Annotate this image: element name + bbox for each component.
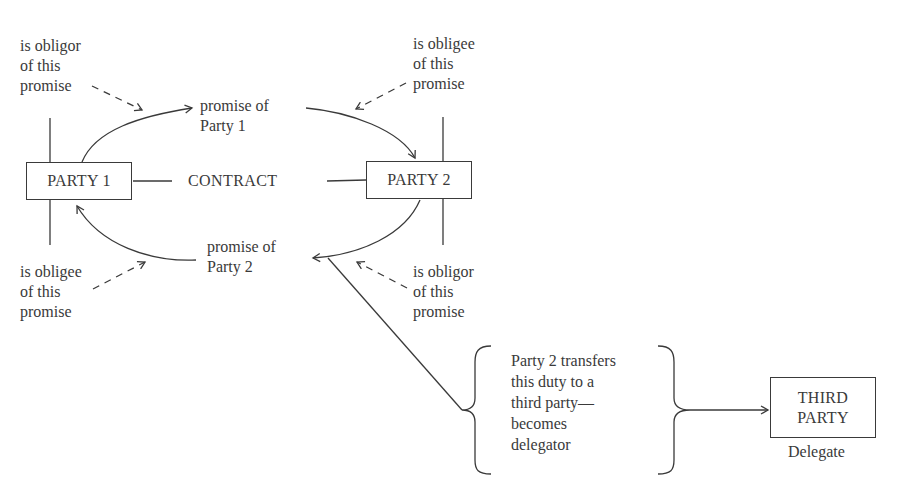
promise2-arrow-right <box>313 200 420 258</box>
obligor-dashed-arrow-top-left <box>92 86 142 110</box>
party1-box: PARTY 1 <box>26 162 132 200</box>
promise1-arrow-right <box>306 108 415 158</box>
delegation-text: Party 2 transfers this duty to a third p… <box>511 350 616 455</box>
promise-party1-label: promise of Party 1 <box>200 96 269 136</box>
role-top-left: is obligor of this promise <box>20 36 81 96</box>
obligee-dashed-arrow-bottom-left <box>93 262 145 289</box>
contract-label: CONTRACT <box>188 171 277 191</box>
delegate-label: Delegate <box>788 442 845 462</box>
third-party-label-line1: THIRD <box>798 388 848 408</box>
contract-right-connector <box>327 180 366 181</box>
third-party-label-line2: PARTY <box>797 408 849 428</box>
party2-box: PARTY 2 <box>366 161 472 199</box>
role-top-right: is obligee of this promise <box>413 34 475 94</box>
promise-party2-label: promise of Party 2 <box>207 237 276 277</box>
promise2-arrow-left <box>77 206 196 260</box>
third-party-box: THIRD PARTY <box>770 377 876 438</box>
party1-label: PARTY 1 <box>47 172 111 190</box>
obligee-dashed-arrow-top-right <box>356 83 406 109</box>
left-brace <box>462 346 491 474</box>
right-brace <box>658 346 690 474</box>
obligor-dashed-arrow-bottom-right <box>357 262 407 288</box>
role-bottom-left: is obligee of this promise <box>20 262 82 322</box>
party2-label: PARTY 2 <box>387 171 451 189</box>
role-bottom-right: is obligor of this promise <box>413 262 474 322</box>
promise1-arrow-left <box>82 108 192 162</box>
